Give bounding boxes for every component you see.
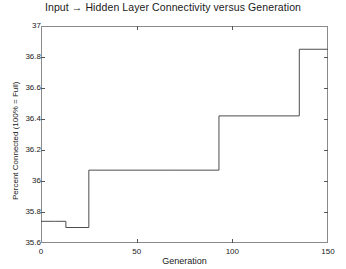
y-tick-label: 36 xyxy=(0,176,47,185)
x-tick-label: 150 xyxy=(313,247,343,256)
chart-figure: Input → Hidden Layer Connectivity versus… xyxy=(0,0,346,269)
x-tick-label: 0 xyxy=(26,247,56,256)
y-tick-label: 35.8 xyxy=(0,207,47,216)
chart-title: Input → Hidden Layer Connectivity versus… xyxy=(0,1,346,13)
y-tick-label: 36.8 xyxy=(0,52,47,61)
x-tick-label: 50 xyxy=(122,247,152,256)
y-tick-label: 35.6 xyxy=(0,238,47,247)
y-tick-label: 36.6 xyxy=(0,83,47,92)
data-line xyxy=(41,26,328,243)
y-axis-title: Percent Connected (100% = Full) xyxy=(11,81,20,200)
x-tick-label: 100 xyxy=(217,247,247,256)
y-tick-label: 37 xyxy=(0,21,47,30)
y-tick-label: 36.2 xyxy=(0,145,47,154)
y-tick-label: 36.4 xyxy=(0,114,47,123)
x-axis-title: Generation xyxy=(41,256,328,266)
